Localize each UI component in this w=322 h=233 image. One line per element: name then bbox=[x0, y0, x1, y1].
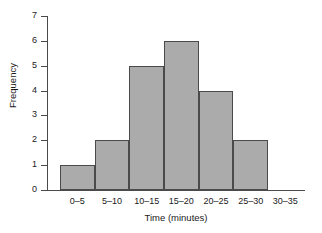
y-axis-tick-label: 4 bbox=[23, 86, 37, 95]
y-axis-tick-label: 5 bbox=[23, 61, 37, 70]
y-axis-tick-label: 6 bbox=[23, 36, 37, 45]
y-axis-tick-label: 2 bbox=[23, 135, 37, 144]
histogram-bar bbox=[95, 140, 130, 190]
histogram-bar bbox=[60, 165, 95, 190]
y-axis-tick bbox=[41, 190, 47, 191]
histogram-bar bbox=[129, 66, 164, 190]
histogram-bar bbox=[199, 91, 234, 190]
y-axis-tick-label: 3 bbox=[23, 110, 37, 119]
x-axis-tick-label: 30–35 bbox=[263, 196, 307, 206]
histogram-figure: 01234567 0–55–1010–1515–2020–2525–3030–3… bbox=[0, 0, 322, 233]
y-axis-tick-label: 1 bbox=[23, 160, 37, 169]
y-axis-title: Frequency bbox=[7, 41, 18, 131]
plot-area bbox=[47, 16, 305, 190]
histogram-bar bbox=[233, 140, 268, 190]
x-axis-title: Time (minutes) bbox=[47, 212, 305, 223]
y-axis-tick-label: 7 bbox=[23, 11, 37, 20]
histogram-bar bbox=[164, 41, 199, 190]
y-axis-tick-label: 0 bbox=[23, 185, 37, 194]
x-axis-line bbox=[47, 190, 305, 191]
